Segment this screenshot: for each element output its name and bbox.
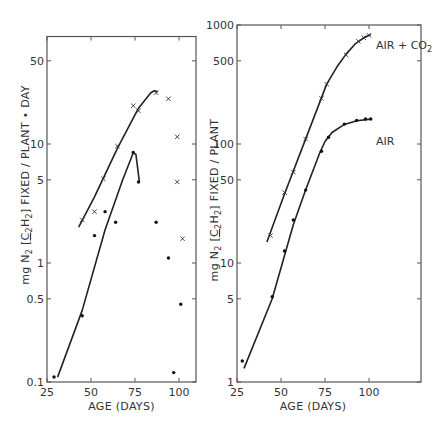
series-air bbox=[241, 117, 373, 368]
dot-marker bbox=[154, 221, 157, 224]
dot-marker bbox=[114, 221, 117, 224]
dot-marker bbox=[304, 188, 307, 191]
fit-line bbox=[267, 35, 371, 242]
dot-marker bbox=[172, 371, 175, 374]
x-marker bbox=[131, 103, 135, 107]
dot-marker bbox=[292, 218, 295, 221]
x-tick-label: 50 bbox=[84, 386, 98, 399]
plot-frame bbox=[47, 37, 196, 382]
figure: 2550751000.10.5151050AGE (DAYS)mg N2 [C2… bbox=[0, 0, 438, 426]
dot-marker bbox=[271, 295, 274, 298]
y-tick-label: 10 bbox=[30, 138, 44, 151]
y-tick-label: 1 bbox=[227, 376, 234, 389]
y-tick-label: 5 bbox=[37, 174, 44, 187]
dot-marker bbox=[241, 359, 244, 362]
dot-marker bbox=[179, 303, 182, 306]
x-tick-label: 100 bbox=[169, 386, 190, 399]
dot-marker bbox=[52, 375, 55, 378]
fit-line bbox=[79, 91, 158, 227]
y-tick-label: 50 bbox=[220, 174, 234, 187]
dot-marker bbox=[343, 122, 346, 125]
plot-frame bbox=[237, 25, 421, 382]
dot-marker bbox=[137, 180, 140, 183]
dot-marker bbox=[132, 151, 135, 154]
x-tick-label: 75 bbox=[128, 386, 142, 399]
x-marker bbox=[92, 209, 96, 213]
y-tick-label: 10 bbox=[220, 257, 234, 270]
x-marker bbox=[175, 135, 179, 139]
y-axis-label: mg N2 [C2H2] FIXED / PLANT • DAY bbox=[19, 85, 34, 285]
dot-marker bbox=[327, 136, 330, 139]
x-axis-label: AGE (DAYS) bbox=[280, 400, 347, 413]
series-air-co2-x- bbox=[79, 90, 185, 240]
dot-marker bbox=[283, 249, 286, 252]
series-label-air-co2: AIR + CO2 bbox=[376, 39, 432, 54]
dot-marker bbox=[320, 149, 323, 152]
dot-marker bbox=[103, 210, 106, 213]
dot-marker bbox=[81, 314, 84, 317]
left-chart-panel: 2550751000.10.5151050AGE (DAYS)mg N2 [C2… bbox=[19, 37, 196, 413]
y-tick-label: 500 bbox=[213, 55, 234, 68]
y-tick-label: 1 bbox=[37, 257, 44, 270]
dot-marker bbox=[167, 256, 170, 259]
y-tick-label: 0.1 bbox=[27, 376, 45, 389]
y-axis-label: mg N2 [C2H2] FIXED / PLANT bbox=[208, 119, 223, 282]
x-marker bbox=[175, 180, 179, 184]
y-tick-label: 50 bbox=[30, 55, 44, 68]
dot-marker bbox=[93, 234, 96, 237]
series-air-co2 bbox=[267, 33, 371, 242]
y-tick-label: 0.5 bbox=[27, 293, 45, 306]
dot-marker bbox=[369, 117, 372, 120]
x-axis-label: AGE (DAYS) bbox=[88, 400, 155, 413]
x-marker bbox=[166, 97, 170, 101]
dot-marker bbox=[355, 119, 358, 122]
series-label-air: AIR bbox=[376, 135, 395, 148]
x-tick-label: 50 bbox=[274, 386, 288, 399]
dot-marker bbox=[364, 117, 367, 120]
y-tick-label: 5 bbox=[227, 293, 234, 306]
right-chart-panel: 2550751001510501005001000AGE (DAYS)mg N2… bbox=[206, 19, 432, 413]
fit-line bbox=[244, 119, 371, 368]
x-tick-label: 75 bbox=[318, 386, 332, 399]
x-marker bbox=[180, 237, 184, 241]
y-tick-label: 1000 bbox=[206, 19, 234, 32]
x-tick-label: 100 bbox=[359, 386, 380, 399]
series-air-filled- bbox=[52, 151, 182, 379]
